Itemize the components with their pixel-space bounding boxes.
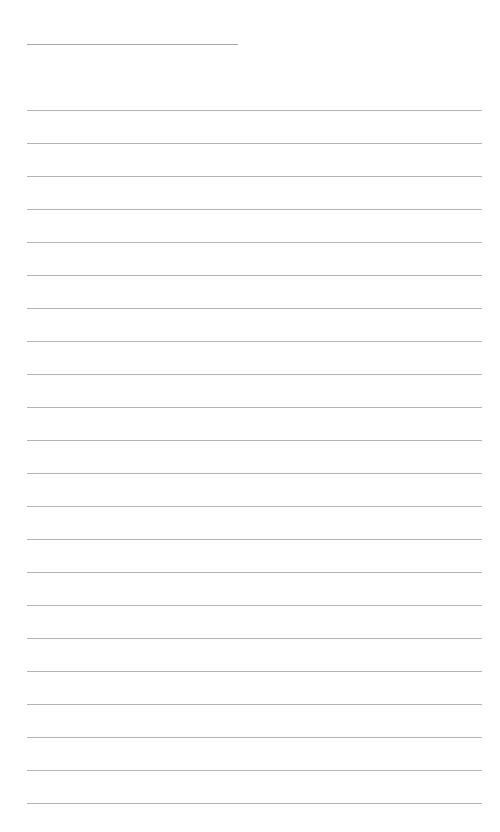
ruled-line	[27, 473, 482, 474]
ruled-line	[27, 803, 482, 804]
ruled-line	[27, 341, 482, 342]
ruled-line	[27, 407, 482, 408]
ruled-line	[27, 209, 482, 210]
ruled-line	[27, 737, 482, 738]
ruled-line	[27, 539, 482, 540]
ruled-line	[27, 110, 482, 111]
ruled-line	[27, 176, 482, 177]
name-header-line	[27, 44, 238, 45]
ruled-line	[27, 242, 482, 243]
ruled-line	[27, 704, 482, 705]
ruled-line	[27, 572, 482, 573]
ruled-line	[27, 308, 482, 309]
ruled-line	[27, 605, 482, 606]
ruled-line	[27, 275, 482, 276]
ruled-line	[27, 374, 482, 375]
ruled-line	[27, 440, 482, 441]
ruled-line	[27, 770, 482, 771]
ruled-line	[27, 671, 482, 672]
ruled-line	[27, 506, 482, 507]
ruled-line	[27, 638, 482, 639]
ruled-line	[27, 143, 482, 144]
